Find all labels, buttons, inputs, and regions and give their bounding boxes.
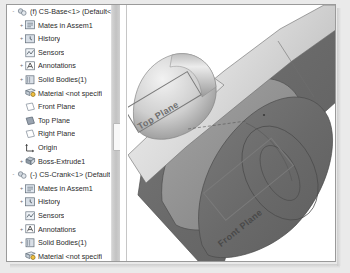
material-icon [25, 88, 36, 98]
tree-row[interactable]: -(f) CS-Base<1> (Default< [7, 5, 120, 19]
tree-item-label: Top Plane [38, 114, 70, 128]
vertex-point [263, 114, 265, 116]
collapse-toggle-icon[interactable]: - [10, 5, 16, 19]
solid-bodies-icon [25, 238, 36, 248]
tree-row[interactable]: +History [7, 32, 120, 46]
tree-item-label: Material <not specifi [38, 87, 102, 101]
tree-item-label: Sensors [38, 209, 64, 223]
tree-row[interactable]: +Annotations [7, 59, 120, 73]
expand-toggle-icon[interactable]: + [18, 19, 24, 33]
graphics-area[interactable]: Top Plane Front Plane [128, 5, 335, 261]
sensors-icon [25, 211, 36, 221]
expand-toggle-icon[interactable]: + [18, 73, 24, 87]
tree-item-label: Annotations [38, 59, 76, 73]
tree-row[interactable]: +Boss-Extrude1 [7, 155, 120, 169]
origin-icon [25, 143, 36, 153]
history-icon [25, 197, 36, 207]
plane-icon [25, 102, 36, 112]
tree-item-label: Sensors [38, 46, 64, 60]
panel-drop-shadow-bottom [10, 264, 340, 268]
tree-item-label: History [38, 32, 60, 46]
tree-row[interactable]: +Solid Bodies(1) [7, 236, 120, 250]
tree-row[interactable]: Top Plane [7, 114, 120, 128]
tree-item-label: History [38, 195, 60, 209]
panel-drop-shadow-right [337, 8, 341, 266]
tree-item-label: (-) CS-Crank<1> (Default [30, 168, 110, 182]
tree-row[interactable]: -(-) CS-Crank<1> (Default [7, 168, 120, 182]
material-icon [25, 251, 36, 261]
mates-icon [25, 20, 36, 30]
assembly-icon [17, 170, 28, 180]
expand-toggle-icon[interactable]: + [18, 59, 24, 73]
tree-item-label: Solid Bodies(1) [38, 73, 87, 87]
tree-row[interactable]: Right Plane [7, 127, 120, 141]
plane-icon [25, 129, 36, 139]
tree-row[interactable]: Sensors [7, 209, 120, 223]
tree-row[interactable]: +Annotations [7, 223, 120, 237]
tree-item-label: Right Plane [38, 127, 75, 141]
scrollbar-thumb[interactable] [113, 123, 120, 151]
tree-item-label: Solid Bodies(1) [38, 236, 87, 250]
collapse-toggle-icon[interactable]: - [10, 168, 16, 182]
tree-item-label: Annotations [38, 223, 76, 237]
mates-icon [25, 184, 36, 194]
expand-toggle-icon[interactable]: + [18, 32, 24, 46]
tree-row[interactable]: +Solid Bodies(1) [7, 73, 120, 87]
expand-toggle-icon[interactable]: + [18, 223, 24, 237]
plane-shaded-icon [25, 116, 36, 126]
tree-row[interactable]: Front Plane [7, 100, 120, 114]
tree-row[interactable]: Material <not specifi [7, 87, 120, 101]
tree-row[interactable]: +Mates in Assem1 [7, 19, 120, 33]
solid-bodies-icon [25, 75, 36, 85]
history-icon [25, 34, 36, 44]
assembly-icon [17, 7, 28, 17]
panel-splitter[interactable] [120, 5, 127, 261]
screenshot-root: -(f) CS-Base<1> (Default<+Mates in Assem… [0, 0, 350, 273]
tree-row[interactable]: Origin [7, 141, 120, 155]
annotations-icon [25, 224, 36, 234]
sensors-icon [25, 48, 36, 58]
tree-row[interactable]: Sensors [7, 46, 120, 60]
tree-item-label: Origin [38, 141, 57, 155]
solidworks-panel: -(f) CS-Base<1> (Default<+Mates in Assem… [6, 4, 336, 262]
expand-toggle-icon[interactable]: + [18, 182, 24, 196]
tree-item-label: Front Plane [38, 100, 75, 114]
tree-item-label: Boss-Extrude1 [38, 155, 85, 169]
tree-item-label: Mates in Assem1 [38, 19, 93, 33]
expand-toggle-icon[interactable]: + [18, 236, 24, 250]
feature-manager-design-tree[interactable]: -(f) CS-Base<1> (Default<+Mates in Assem… [7, 5, 120, 261]
tree-item-label: (f) CS-Base<1> (Default< [30, 5, 111, 19]
expand-toggle-icon[interactable]: + [18, 155, 24, 169]
tree-vertical-scrollbar[interactable] [111, 5, 120, 261]
annotations-icon [25, 61, 36, 71]
tree-row[interactable]: Material <not specifi [7, 250, 120, 261]
model-3d-render [128, 5, 335, 261]
expand-toggle-icon[interactable]: + [18, 195, 24, 209]
tree-item-label: Mates in Assem1 [38, 182, 93, 196]
tree-row[interactable]: +History [7, 195, 120, 209]
tree-item-label: Material <not specifi [38, 250, 102, 261]
tree-row[interactable]: +Mates in Assem1 [7, 182, 120, 196]
boss-extrude-icon [25, 156, 36, 166]
tree-row-list: -(f) CS-Base<1> (Default<+Mates in Assem… [7, 5, 120, 261]
